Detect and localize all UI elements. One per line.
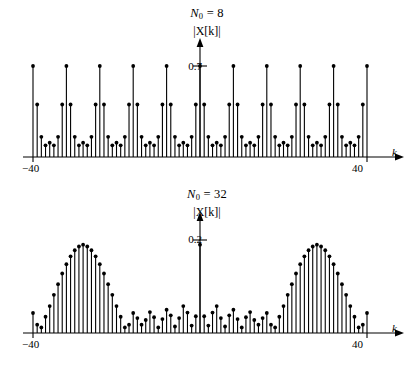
panel-n0-8: N0 = 8 |X[k]| 0.7 −40 40 k [0, 0, 414, 182]
panel-n0-32: N0 = 32 |X[k]| 0.2 −40 40 k [0, 183, 414, 365]
stem-plot-n0-8 [0, 0, 414, 182]
x-axis [23, 154, 404, 161]
x-tick-marks [33, 333, 367, 338]
figure-dft-magnitude-spectra: N0 = 8 |X[k]| 0.7 −40 40 k N0 = 32 |X[k]… [0, 0, 414, 365]
y-axis [193, 38, 207, 157]
x-tick-marks [33, 157, 367, 162]
stem-plot-n0-32 [0, 183, 414, 365]
x-axis [23, 330, 404, 337]
